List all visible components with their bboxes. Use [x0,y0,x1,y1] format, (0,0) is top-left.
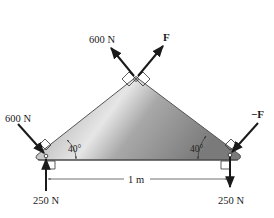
right-negf-arrow [232,123,258,152]
left-250n-label: 250 N [33,195,59,206]
left-600n-arrow [18,124,44,153]
left-600n-label: 600 N [5,113,31,124]
triangular-plate-diagram: 600 N F 600 N −F 250 N 250 N 40° 40° 1 m [0,0,274,218]
left-angle-label: 40° [68,144,82,154]
apex-f-arrow [138,46,163,76]
plate [36,77,241,160]
left-pin-icon [44,154,48,158]
apex-600n-arrow [111,48,134,76]
right-angle-label: 40° [190,144,204,154]
right-negf-label: −F [251,108,264,120]
right-pin-icon [228,153,232,157]
apex-600n-label: 600 N [89,34,115,45]
right-250n-label: 250 N [218,195,244,206]
apex-f-label: F [163,31,170,43]
dimension-label: 1 m [128,174,144,185]
